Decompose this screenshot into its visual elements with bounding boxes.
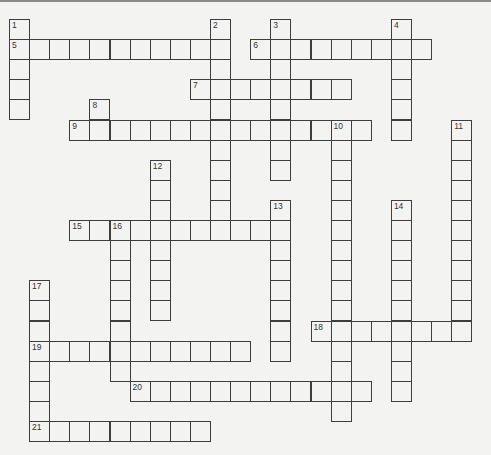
grid-cell[interactable] xyxy=(391,381,412,402)
grid-cell[interactable] xyxy=(130,421,151,442)
grid-cell[interactable] xyxy=(391,341,412,362)
grid-cell[interactable] xyxy=(110,260,131,281)
grid-cell[interactable] xyxy=(391,79,412,100)
grid-cell[interactable] xyxy=(391,240,412,261)
grid-cell[interactable] xyxy=(170,120,191,141)
grid-cell[interactable] xyxy=(270,321,291,342)
grid-cell[interactable] xyxy=(110,341,131,362)
grid-cell[interactable] xyxy=(451,321,472,342)
grid-cell[interactable] xyxy=(89,421,110,442)
grid-cell[interactable] xyxy=(270,99,291,120)
grid-cell[interactable] xyxy=(110,120,131,141)
grid-cell[interactable] xyxy=(230,120,251,141)
grid-cell[interactable] xyxy=(331,381,352,402)
grid-cell[interactable] xyxy=(210,39,231,60)
grid-cell[interactable] xyxy=(290,120,311,141)
grid-cell[interactable] xyxy=(170,341,191,362)
grid-cell[interactable] xyxy=(451,200,472,221)
grid-cell[interactable] xyxy=(331,300,352,321)
grid-cell[interactable] xyxy=(89,220,110,241)
grid-cell[interactable] xyxy=(150,120,171,141)
grid-cell[interactable] xyxy=(170,220,191,241)
grid-cell[interactable] xyxy=(290,79,311,100)
grid-cell[interactable] xyxy=(331,140,352,161)
grid-cell[interactable] xyxy=(110,39,131,60)
grid-cell[interactable] xyxy=(29,300,50,321)
grid-cell[interactable]: 7 xyxy=(190,79,211,100)
grid-cell[interactable] xyxy=(9,99,30,120)
grid-cell[interactable] xyxy=(290,381,311,402)
grid-cell[interactable] xyxy=(89,341,110,362)
grid-cell[interactable] xyxy=(150,240,171,261)
grid-cell[interactable] xyxy=(371,39,392,60)
grid-cell[interactable] xyxy=(451,280,472,301)
grid-cell[interactable] xyxy=(130,220,151,241)
grid-cell[interactable] xyxy=(451,240,472,261)
grid-cell[interactable]: 18 xyxy=(311,321,332,342)
grid-cell[interactable] xyxy=(391,220,412,241)
grid-cell[interactable] xyxy=(391,260,412,281)
grid-cell[interactable] xyxy=(411,321,432,342)
grid-cell[interactable] xyxy=(150,39,171,60)
grid-cell[interactable] xyxy=(451,140,472,161)
grid-cell[interactable]: 14 xyxy=(391,200,412,221)
grid-cell[interactable] xyxy=(331,200,352,221)
grid-cell[interactable] xyxy=(230,341,251,362)
grid-cell[interactable]: 1 xyxy=(9,19,30,40)
grid-cell[interactable] xyxy=(210,140,231,161)
grid-cell[interactable] xyxy=(331,401,352,422)
grid-cell[interactable] xyxy=(210,99,231,120)
grid-cell[interactable] xyxy=(331,260,352,281)
grid-cell[interactable] xyxy=(210,341,231,362)
grid-cell[interactable] xyxy=(69,341,90,362)
grid-cell[interactable] xyxy=(331,280,352,301)
grid-cell[interactable] xyxy=(451,300,472,321)
grid-cell[interactable] xyxy=(9,59,30,80)
grid-cell[interactable] xyxy=(311,39,332,60)
grid-cell[interactable] xyxy=(49,39,70,60)
grid-cell[interactable] xyxy=(89,120,110,141)
grid-cell[interactable] xyxy=(391,59,412,80)
grid-cell[interactable] xyxy=(170,421,191,442)
grid-cell[interactable] xyxy=(451,180,472,201)
grid-cell[interactable] xyxy=(270,341,291,362)
grid-cell[interactable] xyxy=(210,160,231,181)
grid-cell[interactable] xyxy=(210,381,231,402)
grid-cell[interactable] xyxy=(270,300,291,321)
grid-cell[interactable] xyxy=(351,120,372,141)
grid-cell[interactable] xyxy=(270,59,291,80)
grid-cell[interactable] xyxy=(250,79,271,100)
grid-cell[interactable]: 5 xyxy=(9,39,30,60)
grid-cell[interactable] xyxy=(270,39,291,60)
grid-cell[interactable]: 11 xyxy=(451,120,472,141)
grid-cell[interactable] xyxy=(270,120,291,141)
grid-cell[interactable] xyxy=(190,421,211,442)
grid-cell[interactable] xyxy=(391,361,412,382)
grid-cell[interactable] xyxy=(391,39,412,60)
grid-cell[interactable] xyxy=(150,220,171,241)
grid-cell[interactable]: 10 xyxy=(331,120,352,141)
grid-cell[interactable] xyxy=(331,79,352,100)
grid-cell[interactable] xyxy=(29,401,50,422)
grid-cell[interactable] xyxy=(49,341,70,362)
grid-cell[interactable] xyxy=(29,39,50,60)
grid-cell[interactable] xyxy=(290,39,311,60)
grid-cell[interactable] xyxy=(270,260,291,281)
grid-cell[interactable]: 17 xyxy=(29,280,50,301)
grid-cell[interactable] xyxy=(29,321,50,342)
grid-cell[interactable] xyxy=(150,180,171,201)
grid-cell[interactable] xyxy=(451,260,472,281)
grid-cell[interactable] xyxy=(391,99,412,120)
grid-cell[interactable] xyxy=(110,280,131,301)
grid-cell[interactable] xyxy=(311,381,332,402)
grid-cell[interactable] xyxy=(190,39,211,60)
grid-cell[interactable] xyxy=(270,381,291,402)
grid-cell[interactable] xyxy=(170,39,191,60)
grid-cell[interactable] xyxy=(250,381,271,402)
grid-cell[interactable]: 16 xyxy=(110,220,131,241)
grid-cell[interactable]: 13 xyxy=(270,200,291,221)
grid-cell[interactable] xyxy=(210,180,231,201)
grid-cell[interactable] xyxy=(210,79,231,100)
grid-cell[interactable] xyxy=(270,240,291,261)
grid-cell[interactable] xyxy=(150,280,171,301)
